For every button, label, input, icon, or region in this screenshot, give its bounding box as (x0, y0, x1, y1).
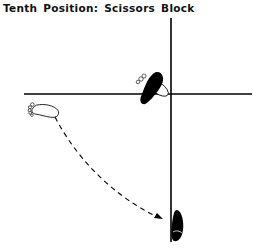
arrowhead-icon (154, 213, 163, 219)
pivot-foot-toes-icon (136, 74, 146, 84)
scissors-block-diagram (0, 0, 253, 252)
end-foot-solid-icon (171, 210, 183, 241)
dashed-path-arrow (55, 117, 160, 218)
